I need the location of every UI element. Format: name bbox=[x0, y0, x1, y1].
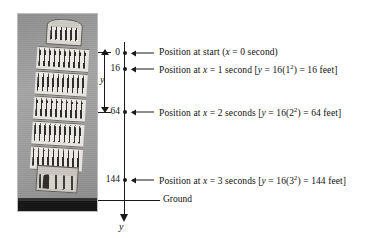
ground-line bbox=[98, 200, 160, 201]
tick-value-0: 0 bbox=[94, 47, 120, 57]
tower-band-1 bbox=[36, 46, 89, 73]
tower-band-2 bbox=[34, 71, 87, 98]
caption-0: Position at start (x = 0 second) bbox=[159, 47, 278, 57]
caption-16-mid2: = 16(1 bbox=[262, 65, 290, 75]
caption-arrow-0 bbox=[132, 53, 154, 54]
tower-colonnade-1 bbox=[38, 50, 87, 69]
photo-ground-strip bbox=[18, 198, 97, 211]
caption-144-lead: Position at bbox=[159, 176, 203, 186]
caption-arrow-16 bbox=[132, 69, 154, 70]
tower-structure bbox=[28, 18, 91, 199]
caption-0-lead: Position at start ( bbox=[159, 47, 226, 57]
caption-64-mid: = 2 seconds [ bbox=[207, 108, 261, 118]
caption-144-mid: = 3 seconds [ bbox=[207, 176, 261, 186]
tower-colonnade-3 bbox=[35, 100, 84, 119]
caption-16-lead: Position at bbox=[159, 65, 203, 75]
tower-colonnade-2 bbox=[37, 75, 86, 94]
tower-colonnade-4 bbox=[34, 125, 83, 144]
belfry-colonnade bbox=[50, 26, 79, 41]
figure-canvas: y y 0 Position at start (x = 0 second) 1… bbox=[0, 0, 369, 238]
caption-144-mid2: = 16(3 bbox=[266, 176, 294, 186]
caption-16-mid: = 1 second [ bbox=[207, 65, 257, 75]
caption-arrow-64 bbox=[132, 112, 154, 113]
tower-band-3 bbox=[33, 96, 86, 123]
tower-base bbox=[35, 165, 79, 194]
caption-16-tail: ) = 16 feet] bbox=[294, 65, 338, 75]
caption-64: Position at x = 2 seconds [y = 16(22) = … bbox=[159, 106, 341, 118]
caption-144-tail: ) = 144 feet] bbox=[297, 176, 346, 186]
tick-dot-64 bbox=[123, 110, 127, 114]
caption-arrow-144 bbox=[132, 180, 154, 181]
caption-64-lead: Position at bbox=[159, 108, 203, 118]
tower-band-4 bbox=[31, 121, 84, 148]
caption-64-mid2: = 16(2 bbox=[266, 108, 294, 118]
y-dimension-label: y bbox=[100, 74, 104, 85]
caption-16: Position at x = 1 second [y = 16(12) = 1… bbox=[159, 63, 337, 75]
tower-belfry bbox=[46, 18, 84, 46]
caption-64-tail: ) = 64 feet] bbox=[297, 108, 341, 118]
caption-144: Position at x = 3 seconds [y = 16(32) = … bbox=[159, 174, 346, 186]
tick-value-64: 64 bbox=[94, 106, 120, 116]
leaning-tower-photo bbox=[17, 13, 98, 212]
ground-label: Ground bbox=[163, 194, 192, 204]
caption-0-mid: = 0 second) bbox=[230, 47, 278, 57]
y-axis-label: y bbox=[119, 221, 123, 232]
tick-value-144: 144 bbox=[94, 174, 120, 184]
tower-entrance bbox=[43, 174, 50, 188]
tick-dot-0 bbox=[123, 51, 127, 55]
tick-dot-144 bbox=[123, 178, 127, 182]
tick-dot-16 bbox=[123, 67, 127, 71]
tick-value-16: 16 bbox=[94, 63, 120, 73]
